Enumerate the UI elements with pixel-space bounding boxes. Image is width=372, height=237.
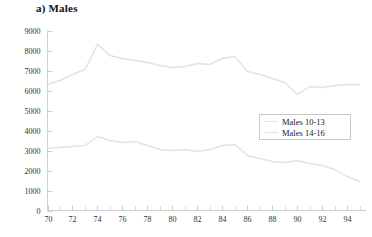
x-tick-label: 80 <box>164 215 182 224</box>
y-tick-label: 9000 <box>11 27 41 36</box>
x-tick-label: 86 <box>239 215 257 224</box>
x-tick-label: 76 <box>114 215 132 224</box>
legend-item-males-14-16: Males 14-16 <box>262 127 348 138</box>
legend-swatch-males-14-16 <box>264 132 278 133</box>
chart-legend: Males 10-13 Males 14-16 <box>259 114 351 140</box>
legend-label-males-14-16: Males 14-16 <box>282 128 325 138</box>
x-tick-label: 90 <box>289 215 307 224</box>
legend-label-males-10-13: Males 10-13 <box>282 117 325 127</box>
x-tick-label: 70 <box>40 215 58 224</box>
y-tick-label: 8000 <box>11 47 41 56</box>
legend-item-males-10-13: Males 10-13 <box>262 116 348 127</box>
y-tick-marks <box>48 32 53 212</box>
x-tick-label: 88 <box>264 215 282 224</box>
x-tick-label: 74 <box>89 215 107 224</box>
y-tick-label: 5000 <box>11 107 41 116</box>
x-tick-label: 72 <box>64 215 82 224</box>
x-tick-label: 82 <box>189 215 207 224</box>
y-tick-label: 0 <box>11 207 41 216</box>
x-tick-label: 94 <box>339 215 357 224</box>
x-tick-label: 84 <box>214 215 232 224</box>
x-tick-label: 92 <box>314 215 332 224</box>
series-line <box>48 137 360 182</box>
data-series-group <box>48 45 360 182</box>
x-tick-label: 78 <box>139 215 157 224</box>
y-tick-label: 2000 <box>11 167 41 176</box>
legend-swatch-males-10-13 <box>264 121 278 122</box>
y-tick-label: 4000 <box>11 127 41 136</box>
y-tick-label: 6000 <box>11 87 41 96</box>
chart-figure: a) Males 0100020003000400050006000700080… <box>0 0 372 237</box>
y-tick-label: 7000 <box>11 67 41 76</box>
y-tick-label: 3000 <box>11 147 41 156</box>
x-tick-marks <box>49 206 361 211</box>
y-tick-label: 1000 <box>11 187 41 196</box>
series-line <box>48 45 360 95</box>
